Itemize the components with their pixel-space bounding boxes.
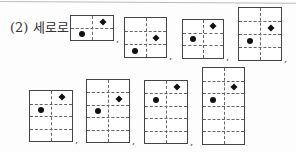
- grid-row-divider: [203, 131, 244, 132]
- circle-marker-icon: [132, 48, 138, 54]
- grid-row-divider: [87, 92, 129, 93]
- diamond-marker-icon: [152, 34, 159, 41]
- pattern-grid-8: [202, 67, 245, 145]
- separator-comma: ,: [132, 135, 135, 146]
- circle-marker-icon: [153, 97, 159, 103]
- pattern-grid-5: [29, 90, 73, 142]
- grid-column-divider: [108, 80, 109, 142]
- separator-comma: ,: [75, 134, 78, 145]
- separator-comma: ,: [226, 51, 229, 62]
- pattern-grid-4: [238, 7, 282, 61]
- circle-marker-icon: [247, 38, 253, 44]
- grid-row-divider: [239, 47, 281, 48]
- circle-marker-icon: [95, 108, 101, 114]
- grid-row-divider: [239, 34, 281, 35]
- diamond-marker-icon: [99, 18, 106, 25]
- grid-column-divider: [146, 18, 147, 57]
- grid-row-divider: [145, 118, 187, 119]
- grid-row-divider: [239, 21, 281, 22]
- grid-row-divider: [145, 106, 187, 107]
- grid-row-divider: [203, 106, 244, 107]
- separator-comma: ,: [169, 50, 172, 61]
- pattern-grid-6: [86, 79, 130, 143]
- grid-row-divider: [71, 28, 113, 29]
- page-top-border: [0, 1, 296, 4]
- circle-marker-icon: [190, 36, 196, 42]
- diamond-marker-icon: [209, 23, 216, 30]
- separator-comma: ,: [284, 53, 287, 64]
- grid-row-divider: [203, 81, 244, 82]
- diamond-marker-icon: [173, 84, 180, 91]
- circle-marker-icon: [79, 31, 85, 37]
- grid-column-divider: [166, 81, 167, 143]
- grid-row-divider: [87, 117, 129, 118]
- pattern-grid-2: [124, 17, 167, 58]
- pattern-grid-3: [182, 19, 224, 59]
- diamond-marker-icon: [267, 24, 274, 31]
- grid-row-divider: [30, 129, 72, 130]
- diamond-marker-icon: [115, 95, 122, 102]
- grid-row-divider: [145, 93, 187, 94]
- diamond-marker-icon: [230, 83, 237, 90]
- grid-row-divider: [125, 44, 166, 45]
- pattern-grid-1: [70, 15, 114, 41]
- grid-row-divider: [30, 104, 72, 105]
- grid-row-divider: [203, 119, 244, 120]
- grid-row-divider: [183, 45, 223, 46]
- grid-row-divider: [125, 31, 166, 32]
- grid-row-divider: [87, 105, 129, 106]
- grid-column-divider: [203, 20, 204, 58]
- grid-row-divider: [30, 116, 72, 117]
- circle-marker-icon: [38, 107, 44, 113]
- grid-row-divider: [87, 130, 129, 131]
- grid-row-divider: [145, 131, 187, 132]
- separator-comma: ,: [116, 33, 119, 44]
- circle-marker-icon: [210, 97, 216, 103]
- diamond-marker-icon: [58, 94, 65, 101]
- grid-row-divider: [183, 33, 223, 34]
- pattern-grid-7: [144, 80, 188, 144]
- problem-label: (2) 세로로: [10, 17, 69, 36]
- separator-comma: ,: [190, 136, 193, 147]
- grid-row-divider: [203, 93, 244, 94]
